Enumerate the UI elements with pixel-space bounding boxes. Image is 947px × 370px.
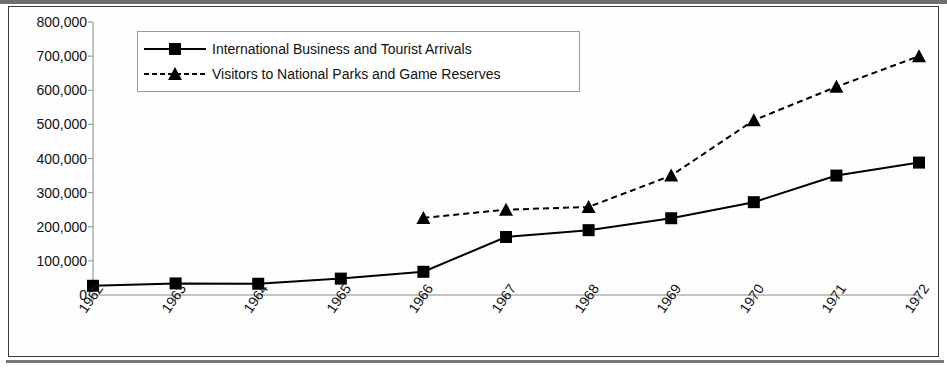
x-tick-label: 1968: [572, 281, 601, 315]
x-tick-label: 1966: [406, 281, 435, 315]
legend-entry-arrivals: International Business and Tourist Arriv…: [138, 37, 472, 61]
x-tick-label: 1963: [159, 281, 188, 315]
legend-key-triangle-dashed: [138, 63, 212, 85]
x-tick-label: 1967: [489, 281, 518, 315]
x-tick-label: 1970: [737, 281, 766, 315]
legend-entry-visitors: Visitors to National Parks and Game Rese…: [138, 62, 500, 86]
x-tick-label: 1962: [76, 281, 105, 315]
legend-label-arrivals: International Business and Tourist Arriv…: [212, 41, 472, 57]
x-tick-label: 1969: [654, 281, 683, 315]
chart-screenshot: 800,000700,000600,000500,000400,000300,0…: [0, 0, 947, 370]
chart-legend: International Business and Tourist Arriv…: [137, 31, 580, 92]
x-tick-label: 1965: [324, 281, 353, 315]
x-tick-label: 1972: [902, 281, 931, 315]
x-tick-label: 1971: [819, 281, 848, 315]
x-tick-label: 1964: [241, 281, 270, 315]
legend-label-visitors: Visitors to National Parks and Game Rese…: [212, 66, 500, 82]
legend-key-square-solid: [138, 38, 212, 60]
